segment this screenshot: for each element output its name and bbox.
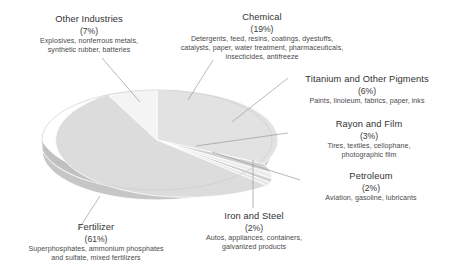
label-title-chemical: Chemical bbox=[148, 12, 376, 24]
label-desc-chemical-line-3: insecticides, antifreeze bbox=[148, 53, 376, 62]
label-desc-petroleum-line-1: Aviation, gasoline, lubricants bbox=[296, 194, 446, 203]
label-petroleum: Petroleum (2%) Aviation, gasoline, lubri… bbox=[296, 171, 446, 203]
label-desc-chemical-line-1: Detergents, feed, resins, coatings, dyes… bbox=[148, 35, 376, 44]
label-desc-fertilizer-line-2: and sulfate, mixed fertilizers bbox=[2, 254, 190, 263]
label-desc-titanium-line-1: Paints, linoleum, fabrics, paper, inks bbox=[287, 97, 447, 106]
label-desc-fertilizer-line-1: Superphosphates, ammonium phosphates bbox=[2, 245, 190, 254]
label-percent-rayon-and-film: (3%) bbox=[296, 131, 442, 142]
label-title-iron-and-steel: Iron and Steel bbox=[182, 211, 326, 223]
label-desc-rayon-line-2: photographic film bbox=[296, 151, 442, 160]
label-fertilizer: Fertilizer (61%) Superphosphates, ammoni… bbox=[2, 222, 190, 263]
label-title-rayon-and-film: Rayon and Film bbox=[296, 119, 442, 131]
pie-chart-figure: Other Industries (7%) Explosives, nonfer… bbox=[0, 0, 449, 275]
label-iron-and-steel: Iron and Steel (2%) Autos, appliances, c… bbox=[182, 211, 326, 252]
label-desc-chemical-line-2: catalysts, paper, water treatment, pharm… bbox=[148, 44, 376, 53]
label-desc-rayon-line-1: Tires, textiles, cellophane, bbox=[296, 142, 442, 151]
label-percent-petroleum: (2%) bbox=[296, 183, 446, 194]
label-percent-fertilizer: (61%) bbox=[2, 234, 190, 245]
label-rayon-and-film: Rayon and Film (3%) Tires, textiles, cel… bbox=[296, 119, 442, 160]
label-titanium-and-other-pigments: Titanium and Other Pigments (6%) Paints,… bbox=[287, 74, 447, 106]
label-chemical: Chemical (19%) Detergents, feed, resins,… bbox=[148, 12, 376, 63]
label-desc-iron-line-1: Autos, appliances, containers, bbox=[182, 234, 326, 243]
label-desc-iron-line-2: galvanized products bbox=[182, 243, 326, 252]
label-percent-titanium: (6%) bbox=[287, 86, 447, 97]
label-percent-chemical: (19%) bbox=[148, 24, 376, 35]
label-title-fertilizer: Fertilizer bbox=[2, 222, 190, 234]
label-title-petroleum: Petroleum bbox=[296, 171, 446, 183]
label-title-titanium: Titanium and Other Pigments bbox=[287, 74, 447, 86]
label-percent-iron-and-steel: (2%) bbox=[182, 223, 326, 234]
